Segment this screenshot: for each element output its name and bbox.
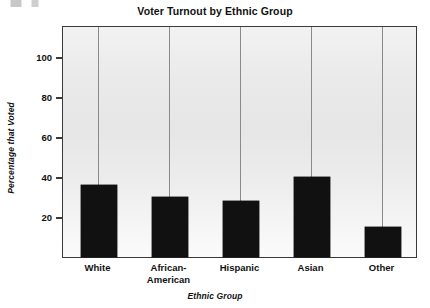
x-axis-title: Ethnic Group — [0, 291, 430, 301]
y-axis-tick-label: 60 — [22, 133, 52, 143]
bar-african-american — [152, 197, 188, 257]
y-axis-tick-label: 100 — [22, 53, 52, 63]
y-axis-tick-label: 40 — [22, 173, 52, 183]
category-gridline — [382, 27, 383, 257]
y-axis-tick-label: 80 — [22, 93, 52, 103]
x-axis-tick-label-line: American — [124, 274, 214, 286]
bar-hispanic — [223, 201, 259, 257]
plot-area — [62, 26, 417, 258]
y-axis-tick-label: 20 — [22, 213, 52, 223]
y-axis-title: Percentage that Voted — [6, 88, 16, 208]
x-axis-tick-label-line: Other — [337, 262, 427, 274]
bar-white — [81, 185, 117, 257]
bar-asian — [294, 177, 330, 257]
chart-figure: Voter Turnout by Ethnic Group Percentage… — [0, 0, 430, 308]
x-axis-tick-label: Other — [337, 262, 427, 274]
chart-title: Voter Turnout by Ethnic Group — [0, 5, 430, 17]
bar-other — [365, 227, 401, 257]
